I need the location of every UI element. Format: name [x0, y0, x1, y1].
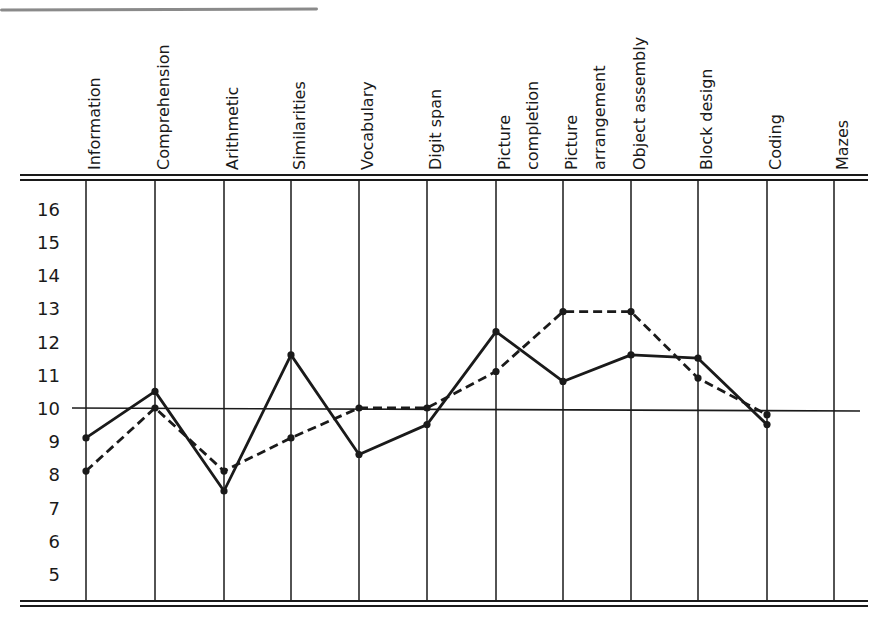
data-point — [694, 375, 701, 382]
y-tick-label: 10 — [37, 398, 60, 419]
y-tick-label: 5 — [49, 564, 60, 585]
data-point — [151, 404, 158, 411]
category-label: Digit span — [426, 89, 445, 170]
category-label: Comprehension — [154, 44, 173, 170]
category-label: Picture — [495, 115, 514, 170]
y-tick-label: 9 — [49, 431, 60, 452]
data-point — [627, 351, 634, 358]
data-point — [423, 421, 430, 428]
data-point — [151, 388, 158, 395]
category-label: Picture — [562, 115, 581, 170]
data-point — [287, 434, 294, 441]
category-label: Block design — [697, 69, 716, 170]
data-point — [287, 351, 294, 358]
y-tick-label: 7 — [49, 498, 60, 519]
category-label: arrangement — [590, 66, 609, 170]
category-label: Coding — [766, 114, 785, 170]
data-point — [220, 487, 227, 494]
category-label: Arithmetic — [223, 87, 242, 170]
data-point — [492, 328, 499, 335]
data-point — [559, 378, 566, 385]
y-tick-label: 15 — [37, 232, 60, 253]
data-point — [355, 451, 362, 458]
data-point — [492, 368, 499, 375]
data-point — [355, 404, 362, 411]
data-point — [763, 411, 770, 418]
y-tick-label: 14 — [37, 265, 60, 286]
data-point — [82, 467, 89, 474]
category-label: Mazes — [833, 120, 852, 170]
data-point — [627, 308, 634, 315]
subtest-profile-chart: 1615141312111098765InformationComprehens… — [0, 0, 886, 625]
mean-reference-line — [72, 408, 860, 411]
data-point — [763, 421, 770, 428]
y-tick-label: 6 — [49, 531, 60, 552]
category-label: Similarities — [290, 81, 309, 170]
y-tick-label: 16 — [37, 199, 60, 220]
data-point — [423, 404, 430, 411]
category-label: Information — [85, 77, 104, 170]
category-label: Vocabulary — [358, 81, 377, 170]
y-tick-label: 11 — [37, 365, 60, 386]
data-point — [559, 308, 566, 315]
category-label: completion — [523, 81, 542, 170]
y-tick-label: 8 — [49, 464, 60, 485]
data-point — [694, 355, 701, 362]
y-tick-label: 13 — [37, 298, 60, 319]
data-point — [82, 434, 89, 441]
data-point — [220, 467, 227, 474]
category-label: Object assembly — [630, 37, 649, 170]
y-tick-label: 12 — [37, 332, 60, 353]
